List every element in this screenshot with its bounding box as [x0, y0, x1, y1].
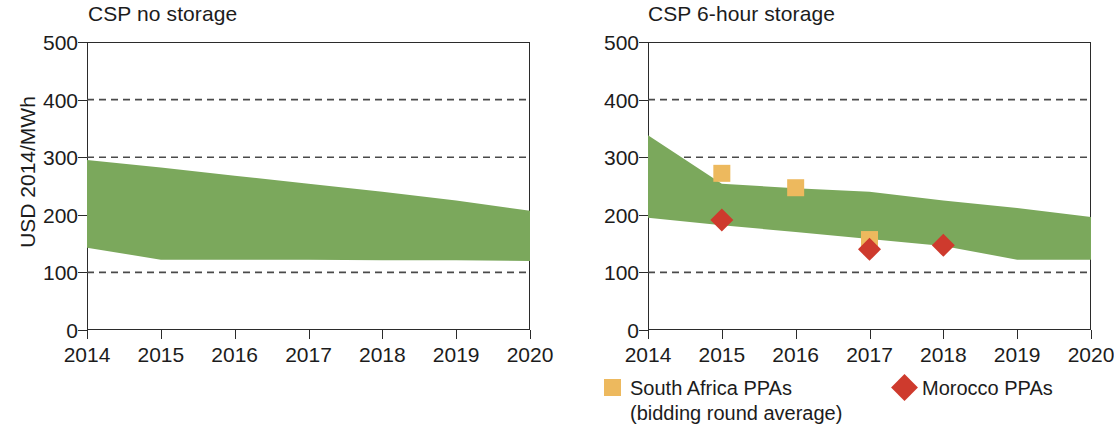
- x-axis-tick: [1017, 330, 1018, 339]
- y-axis-tick: [78, 215, 87, 216]
- y-axis-tick: [78, 157, 87, 158]
- y-axis-tick: [639, 215, 648, 216]
- x-axis-tick-label: 2016: [772, 344, 819, 365]
- x-axis-tick: [870, 330, 871, 339]
- x-axis-tick-label: 2020: [507, 344, 554, 365]
- x-axis-tick-label: 2014: [64, 344, 111, 365]
- y-axis-tick: [639, 42, 648, 43]
- y-axis-tick: [639, 330, 648, 331]
- x-axis-tick-label: 2018: [359, 344, 406, 365]
- cost-range-band: [87, 160, 530, 261]
- y-axis-tick: [78, 42, 87, 43]
- square-marker-icon: [604, 379, 621, 396]
- y-axis-tick-label: 200: [604, 204, 639, 225]
- y-axis-tick-label: 300: [604, 147, 639, 168]
- legend-sublabel-south-africa: (bidding round average): [630, 402, 842, 424]
- y-axis-tick-label: 0: [627, 320, 639, 341]
- chart-title-left: CSP no storage: [88, 2, 237, 26]
- plot-canvas-left: [87, 42, 530, 330]
- x-axis-tick: [530, 330, 531, 339]
- x-axis-tick-label: 2016: [211, 344, 258, 365]
- x-axis-tick: [1091, 330, 1092, 339]
- x-axis-tick: [87, 330, 88, 339]
- y-axis-tick-label: 100: [43, 262, 78, 283]
- legend-item-morocco: Morocco PPAs: [895, 376, 1053, 401]
- y-axis-tick: [639, 100, 648, 101]
- x-axis-tick: [796, 330, 797, 339]
- y-axis-tick-label: 300: [43, 147, 78, 168]
- x-axis-tick: [648, 330, 649, 339]
- x-axis-tick-label: 2020: [1068, 344, 1114, 365]
- square-marker: [787, 179, 804, 196]
- x-axis-tick-label: 2017: [846, 344, 893, 365]
- y-axis-tick-label: 400: [604, 89, 639, 110]
- x-axis-tick-label: 2019: [994, 344, 1041, 365]
- diamond-marker-icon: [891, 374, 918, 401]
- x-axis-tick-label: 2015: [698, 344, 745, 365]
- x-axis-tick: [722, 330, 723, 339]
- x-axis-tick-label: 2014: [625, 344, 672, 365]
- plot-area-left: 0100200300400500201420152016201720182019…: [87, 42, 530, 330]
- chart-title-right: CSP 6-hour storage: [648, 2, 835, 26]
- y-axis-tick-label: 100: [604, 262, 639, 283]
- y-axis-tick: [78, 272, 87, 273]
- x-axis-tick: [943, 330, 944, 339]
- x-axis-tick-label: 2018: [920, 344, 967, 365]
- legend: South Africa PPAs (bidding round average…: [604, 376, 1107, 434]
- y-axis-tick-label: 500: [604, 32, 639, 53]
- x-axis-tick: [309, 330, 310, 339]
- chart-panel-csp-no-storage: CSP no storage USD 2014/MWh 010020030040…: [0, 0, 560, 375]
- square-marker: [713, 165, 730, 182]
- x-axis-tick: [456, 330, 457, 339]
- plot-canvas-right: [648, 42, 1091, 330]
- y-axis-tick-label: 500: [43, 32, 78, 53]
- y-axis-tick: [78, 330, 87, 331]
- x-axis-tick-label: 2015: [137, 344, 184, 365]
- x-axis-tick-label: 2017: [285, 344, 332, 365]
- y-axis-tick: [639, 272, 648, 273]
- legend-label-south-africa: South Africa PPAs: [630, 377, 792, 399]
- y-axis-tick: [78, 100, 87, 101]
- chart-panel-csp-6-hour-storage: CSP 6-hour storage 010020030040050020142…: [560, 0, 1107, 375]
- x-axis-tick: [161, 330, 162, 339]
- y-axis-tick-label: 0: [66, 320, 78, 341]
- y-axis-tick-label: 200: [43, 204, 78, 225]
- x-axis-tick-label: 2019: [433, 344, 480, 365]
- x-axis-tick: [235, 330, 236, 339]
- y-axis-tick-label: 400: [43, 89, 78, 110]
- legend-label-morocco: Morocco PPAs: [922, 376, 1053, 401]
- y-axis-tick: [639, 157, 648, 158]
- legend-item-south-africa: South Africa PPAs (bidding round average…: [604, 376, 842, 426]
- y-axis-label: USD 2014/MWh: [16, 52, 40, 292]
- x-axis-tick: [382, 330, 383, 339]
- plot-area-right: 0100200300400500201420152016201720182019…: [648, 42, 1091, 330]
